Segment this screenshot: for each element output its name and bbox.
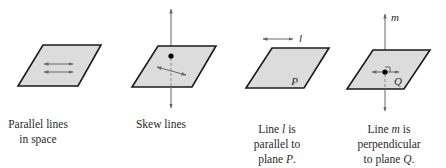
caption-line: Line m is	[357, 122, 420, 137]
line-m-label: m	[391, 11, 399, 23]
caption-line: to plane Q.	[357, 152, 420, 167]
line-l-label: l	[299, 32, 302, 44]
caption-line: parallel to	[254, 137, 300, 152]
plane	[18, 45, 101, 86]
plane-q-label: Q	[394, 75, 402, 87]
caption-line: plane P.	[254, 152, 300, 167]
panel-line-parallel-plane: l P	[246, 32, 329, 88]
plane	[132, 46, 216, 87]
caption-line-parallel-plane: Line l is parallel to plane P.	[254, 122, 300, 167]
line-m-italic: m	[392, 123, 400, 135]
plane-q-italic: Q	[403, 153, 411, 165]
panel-parallel-lines	[18, 45, 101, 86]
plane-q	[347, 50, 430, 89]
caption-line: in space	[8, 132, 68, 147]
panel-line-perpendicular-plane: m Q	[347, 11, 430, 111]
caption-line: perpendicular	[357, 137, 420, 152]
caption-line: Line l is	[254, 122, 300, 137]
plane-p-label: P	[290, 75, 298, 87]
line-l-italic: l	[282, 123, 285, 135]
caption-line-perpendicular-plane: Line m is perpendicular to plane Q.	[357, 122, 420, 167]
plane-p-italic: P	[286, 153, 293, 165]
caption-line: Parallel lines	[8, 117, 68, 132]
caption-parallel-lines: Parallel lines in space	[8, 117, 68, 147]
intersection-point-icon	[382, 69, 387, 74]
plane-p	[246, 48, 329, 88]
caption-line: Skew lines	[136, 117, 186, 132]
intersection-point-icon	[168, 53, 173, 58]
caption-skew-lines: Skew lines	[136, 117, 186, 132]
panel-skew-lines	[132, 9, 216, 108]
